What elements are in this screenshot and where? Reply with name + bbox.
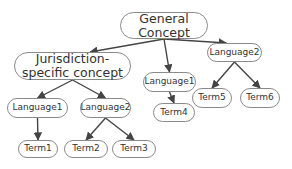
node-language2-right: Language2	[207, 43, 262, 62]
node-label: Language1	[12, 103, 62, 113]
node-label: Jurisdiction-specific concept	[15, 52, 130, 80]
node-label: Term4	[160, 108, 188, 118]
node-label: Term3	[120, 144, 148, 154]
node-language1-left: Language1	[7, 98, 68, 118]
edge-general-to-jurisdiction	[90, 39, 164, 52]
node-label: Term1	[24, 144, 52, 154]
node-label: Language2	[209, 48, 259, 58]
edge-jurisdiction-to-lang1_left	[38, 80, 73, 98]
edge-lang1_left-to-term1	[38, 118, 39, 140]
node-term4: Term4	[153, 103, 195, 122]
node-term6: Term6	[240, 88, 280, 108]
edge-jurisdiction-to-lang2_left	[73, 80, 106, 98]
edge-lang2_left-to-term3	[106, 118, 135, 140]
edge-general-to-lang1_mid	[164, 39, 170, 72]
node-term3: Term3	[112, 140, 156, 158]
edge-lang2_left-to-term2	[86, 118, 106, 140]
node-general-concept: General Concept	[120, 12, 208, 39]
node-label: Term5	[198, 93, 226, 103]
node-language2-left: Language2	[80, 98, 131, 118]
node-term2: Term2	[64, 140, 108, 158]
node-term5: Term5	[192, 88, 232, 108]
edge-lang2_right-to-term6	[235, 62, 261, 88]
node-label: General Concept	[121, 12, 207, 40]
node-label: Term2	[72, 144, 100, 154]
node-jurisdiction-specific-concept: Jurisdiction-specific concept	[14, 52, 131, 80]
node-term1: Term1	[18, 140, 58, 158]
node-language1-mid: Language1	[143, 72, 196, 92]
edge-lang2_right-to-term5	[212, 62, 235, 88]
edge-lang1_mid-to-term4	[170, 92, 175, 103]
node-label: Language1	[144, 77, 194, 87]
node-label: Term6	[246, 93, 274, 103]
node-label: Language2	[80, 103, 130, 113]
